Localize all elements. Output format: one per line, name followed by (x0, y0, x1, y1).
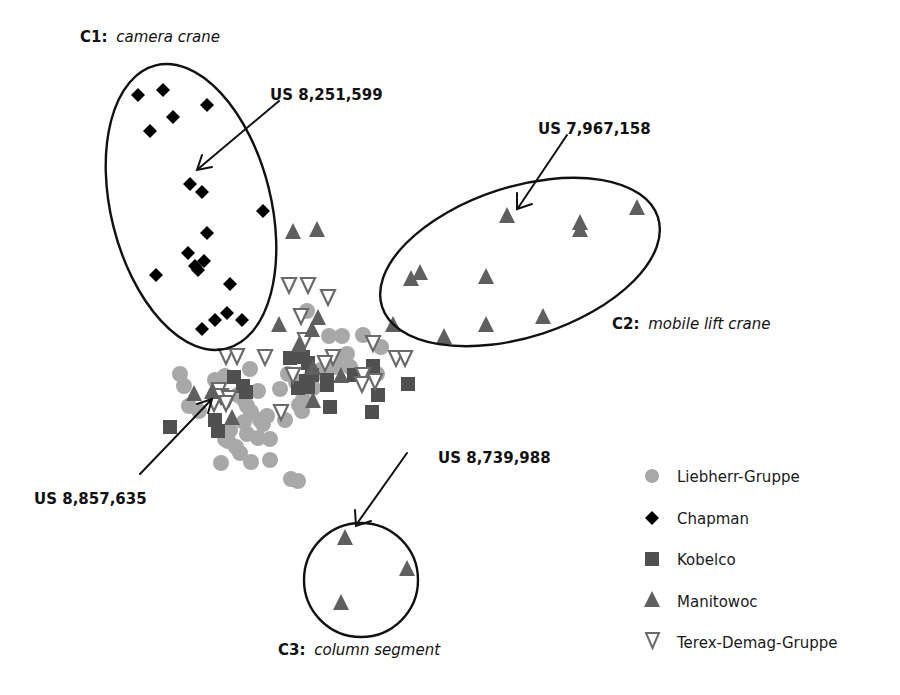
patent-cluster-scatter: C1: camera crane C2: mobile lift crane C… (0, 0, 900, 695)
data-point (143, 124, 157, 138)
data-point (255, 416, 271, 432)
legend: Liebherr-Gruppe Chapman Kobelco Manitowo… (644, 468, 838, 652)
data-point (283, 351, 297, 365)
data-point (285, 223, 301, 239)
legend-label: Terex-Demag-Gruppe (676, 634, 838, 652)
diamond-marker-icon (645, 511, 659, 525)
data-point (208, 313, 222, 327)
annotation-us-8251599: US 8,251,599 (270, 86, 383, 104)
annotation-us-8857635: US 8,857,635 (34, 490, 147, 508)
annotation-us-8739988: US 8,739,988 (438, 449, 551, 467)
data-point (256, 204, 270, 218)
legend-item-terex: Terex-Demag-Gruppe (646, 633, 838, 652)
data-point (223, 277, 237, 291)
data-point (321, 290, 335, 305)
data-point (262, 431, 278, 447)
cluster-c2-outline (359, 146, 681, 378)
arrow-us-8251599 (197, 101, 279, 170)
data-point (243, 454, 259, 470)
data-point (262, 452, 278, 468)
data-point (296, 350, 310, 364)
triangle-down-open-marker-icon (646, 633, 659, 648)
data-point (436, 328, 452, 344)
data-point (163, 420, 177, 434)
data-point (499, 207, 515, 223)
data-point (181, 246, 195, 260)
data-point (478, 316, 494, 332)
data-point (200, 226, 214, 240)
triangle-up-marker-icon (644, 591, 660, 607)
data-point (200, 98, 214, 112)
data-point (235, 313, 249, 327)
data-point (337, 529, 353, 545)
legend-item-chapman: Chapman (645, 510, 749, 528)
legend-item-liebherr: Liebherr-Gruppe (645, 468, 800, 486)
arrow-us-7967158 (517, 135, 567, 209)
square-marker-icon (645, 552, 659, 566)
data-point (242, 361, 258, 377)
data-point (149, 268, 163, 282)
data-point (412, 264, 428, 280)
arrow-us-8857635 (140, 399, 212, 474)
data-point (208, 413, 222, 427)
data-point (230, 349, 244, 364)
cluster-c3-label: C3: column segment (278, 641, 441, 659)
data-point (401, 377, 415, 391)
data-point (166, 110, 180, 124)
cluster-c3-id: C3: (278, 641, 305, 659)
data-point (258, 350, 272, 365)
data-point (320, 373, 334, 387)
data-point (355, 377, 369, 392)
data-point (272, 381, 288, 397)
data-point (239, 385, 253, 399)
cluster-c2-label: C2: mobile lift crane (612, 315, 770, 333)
legend-item-manitowoc: Manitowoc (644, 591, 758, 611)
legend-label: Chapman (677, 510, 749, 528)
data-point (301, 278, 315, 293)
cluster-c3-name: column segment (314, 641, 441, 659)
legend-item-kobelco: Kobelco (645, 551, 736, 569)
cluster-c3-outline (304, 523, 418, 637)
data-point (323, 400, 337, 414)
data-point (629, 199, 645, 215)
data-point (365, 405, 379, 419)
data-point (239, 398, 255, 414)
data-point (220, 306, 234, 320)
cluster-c1-id: C1: (80, 28, 107, 46)
data-point (271, 316, 287, 332)
cluster-c1-label: C1: camera crane (80, 28, 220, 46)
data-point (290, 473, 306, 489)
series-chapman (131, 83, 270, 336)
data-point (371, 388, 385, 402)
data-point (333, 594, 349, 610)
data-point (183, 177, 197, 191)
data-point (282, 278, 296, 293)
circle-marker-icon (645, 469, 659, 483)
annotation-us-7967158: US 7,967,158 (538, 120, 651, 138)
data-point (131, 88, 145, 102)
data-point (156, 83, 170, 97)
data-point (535, 308, 551, 324)
arrow-us-8739988 (355, 453, 407, 526)
cluster-c2-name: mobile lift crane (648, 315, 770, 333)
cluster-c2-id: C2: (612, 315, 639, 333)
legend-label: Manitowoc (677, 593, 758, 611)
data-point (195, 322, 209, 336)
legend-label: Kobelco (677, 551, 736, 569)
cluster-c1-name: camera crane (116, 28, 220, 46)
data-point (399, 560, 415, 576)
data-point (334, 328, 350, 344)
data-point (213, 455, 229, 471)
data-point (309, 221, 325, 237)
data-point (176, 378, 192, 394)
data-point (195, 185, 209, 199)
legend-label: Liebherr-Gruppe (677, 468, 800, 486)
data-point (478, 268, 494, 284)
